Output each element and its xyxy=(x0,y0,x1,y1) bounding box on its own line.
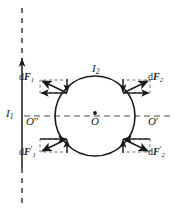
force-lower-right-subscript: 2 xyxy=(161,151,164,158)
force-upper-right-group xyxy=(123,79,150,93)
label-wire-current: I1 xyxy=(6,108,13,121)
force-upper-left-group xyxy=(40,79,67,93)
wire-current-subscript: 1 xyxy=(10,112,14,121)
force-lower-left-group xyxy=(40,139,67,153)
force-lower-right-resultant-arrow xyxy=(123,139,148,151)
force-upper-right-symbol: F xyxy=(153,71,160,82)
right-point-prime: ′ xyxy=(156,115,158,127)
force-lower-right-symbol: F xyxy=(153,146,160,157)
figure-canvas: I1 I2 O O′ O″ dF1 dF2 dF′1 dF′2 xyxy=(0,0,175,211)
label-force-upper-right: dF2 xyxy=(148,72,163,84)
force-lower-left-resultant-arrow xyxy=(43,139,68,151)
force-lower-left-symbol: F xyxy=(24,146,31,157)
left-point-double-prime: ″ xyxy=(34,115,39,127)
right-point-symbol: O xyxy=(148,115,156,127)
label-loop-current: I2 xyxy=(92,63,99,76)
diagram-svg xyxy=(0,0,175,211)
label-force-lower-left: dF′1 xyxy=(19,146,36,158)
label-left-point: O″ xyxy=(26,116,39,127)
force-upper-right-subscript: 2 xyxy=(160,76,163,83)
force-upper-left-symbol: F xyxy=(24,71,31,82)
force-upper-left-subscript: 1 xyxy=(31,76,34,83)
label-right-point: O′ xyxy=(148,116,158,127)
force-upper-right-resultant-arrow xyxy=(123,81,148,93)
label-center-point: O xyxy=(91,116,99,127)
force-lower-left-subscript: 1 xyxy=(32,151,35,158)
center-point-symbol: O xyxy=(91,115,99,127)
force-lower-right-group xyxy=(123,139,150,153)
label-force-lower-right: dF′2 xyxy=(148,146,165,158)
force-upper-left-resultant-arrow xyxy=(43,81,68,93)
loop-current-subscript: 2 xyxy=(96,67,100,76)
label-force-upper-left: dF1 xyxy=(19,72,34,84)
left-point-symbol: O xyxy=(26,115,34,127)
